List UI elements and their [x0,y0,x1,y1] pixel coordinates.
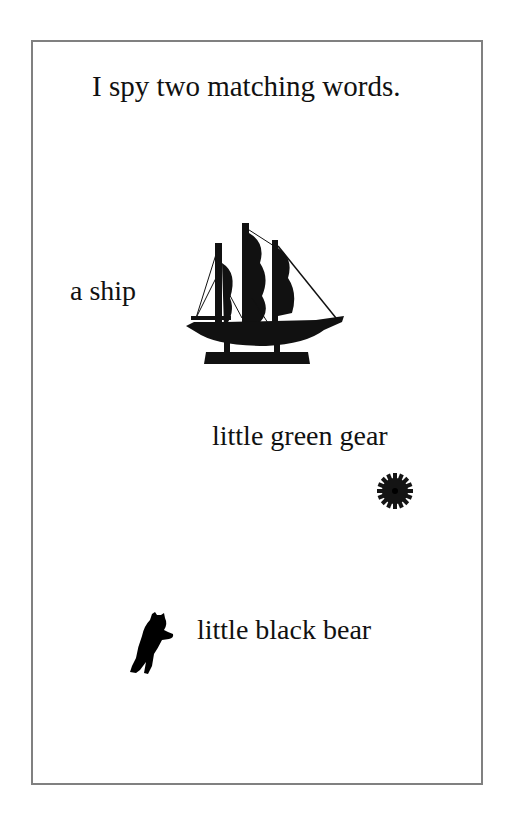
item-label-gear: little green gear [212,420,388,452]
item-label-bear: little black bear [197,614,371,646]
bear-icon [124,610,174,676]
worksheet-card [31,40,483,785]
ship-icon [186,218,346,366]
page-title: I spy two matching words. [92,70,401,103]
item-label-ship: a ship [70,275,136,307]
gear-icon [376,472,414,510]
